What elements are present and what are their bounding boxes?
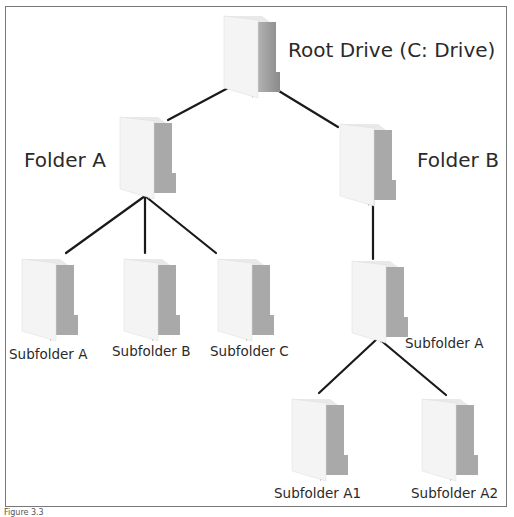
figure-caption: Figure 3.3 xyxy=(4,508,44,517)
subfolder-a1-label: Subfolder A1 xyxy=(274,485,361,501)
subfolder-a-label: Subfolder A xyxy=(9,346,87,362)
folder-a-label: Folder A xyxy=(24,148,106,172)
folder-icon[interactable] xyxy=(118,113,162,195)
subfolder-a2-label: Subfolder A2 xyxy=(411,485,498,501)
folder-icon[interactable] xyxy=(20,255,64,337)
folder-icon[interactable] xyxy=(122,255,166,337)
folder-icon[interactable] xyxy=(338,120,382,202)
folder-icon[interactable] xyxy=(290,395,334,477)
root-drive-label: Root Drive (C: Drive) xyxy=(288,38,495,62)
folder-icon[interactable] xyxy=(216,255,260,337)
subfolder-b-label: Subfolder B xyxy=(112,343,190,359)
folder-icon[interactable] xyxy=(420,395,464,477)
folder-b-label: Folder B xyxy=(417,148,499,172)
folder-b-subfolder-a-label: Subfolder A xyxy=(405,335,483,351)
folder-icon[interactable] xyxy=(350,257,394,339)
subfolder-c-label: Subfolder C xyxy=(210,343,289,359)
folder-icon[interactable] xyxy=(222,12,266,94)
